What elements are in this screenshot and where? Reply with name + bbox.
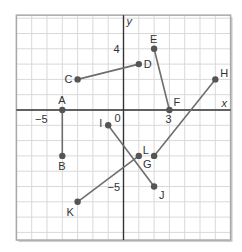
point-label: E — [150, 33, 157, 45]
point-marker — [151, 153, 157, 159]
x-axis-label: x — [221, 97, 228, 109]
grid-lines — [16, 15, 232, 242]
point-marker — [74, 76, 80, 82]
point-marker — [136, 153, 142, 159]
y-tick-label: 4 — [114, 43, 120, 55]
point-a: A — [58, 94, 66, 113]
point-label: A — [58, 94, 66, 106]
point-marker — [136, 61, 142, 67]
point-label: J — [159, 189, 165, 201]
x-tick-label: −5 — [35, 113, 48, 125]
point-marker — [166, 107, 172, 113]
point-label: C — [65, 73, 73, 85]
y-tick-label: −5 — [108, 181, 121, 193]
point-marker — [151, 46, 157, 52]
coordinate-plane-figure: xy0−534−5 ABCDEFGHIJKL — [0, 0, 242, 252]
point-label: B — [58, 160, 65, 172]
point-marker — [74, 199, 80, 205]
point-label: K — [67, 206, 75, 218]
point-label: D — [144, 58, 152, 70]
point-marker — [212, 76, 218, 82]
point-label: H — [220, 67, 228, 79]
point-marker — [105, 122, 111, 128]
point-marker — [59, 153, 65, 159]
point-marker — [59, 107, 65, 113]
point-label: I — [99, 117, 102, 129]
origin-label: 0 — [115, 112, 121, 124]
coordinate-plane: xy0−534−5 ABCDEFGHIJKL — [0, 0, 242, 252]
point-label: G — [143, 158, 152, 170]
point-label: L — [143, 144, 149, 156]
point-label: F — [173, 96, 180, 108]
point-e: E — [150, 33, 157, 52]
point-b: B — [58, 153, 65, 172]
point-marker — [151, 183, 157, 189]
x-tick-label: 3 — [165, 113, 171, 125]
